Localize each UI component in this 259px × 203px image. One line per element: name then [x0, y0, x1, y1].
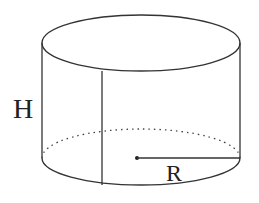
radius-label: R [166, 160, 182, 186]
top-ellipse [42, 15, 240, 71]
bottom-ellipse-front [42, 158, 240, 185]
height-label: H [13, 93, 33, 124]
cylinder-figure: H R [0, 0, 259, 203]
cylinder-diagram: H R [0, 0, 259, 203]
bottom-ellipse-back [42, 129, 240, 158]
